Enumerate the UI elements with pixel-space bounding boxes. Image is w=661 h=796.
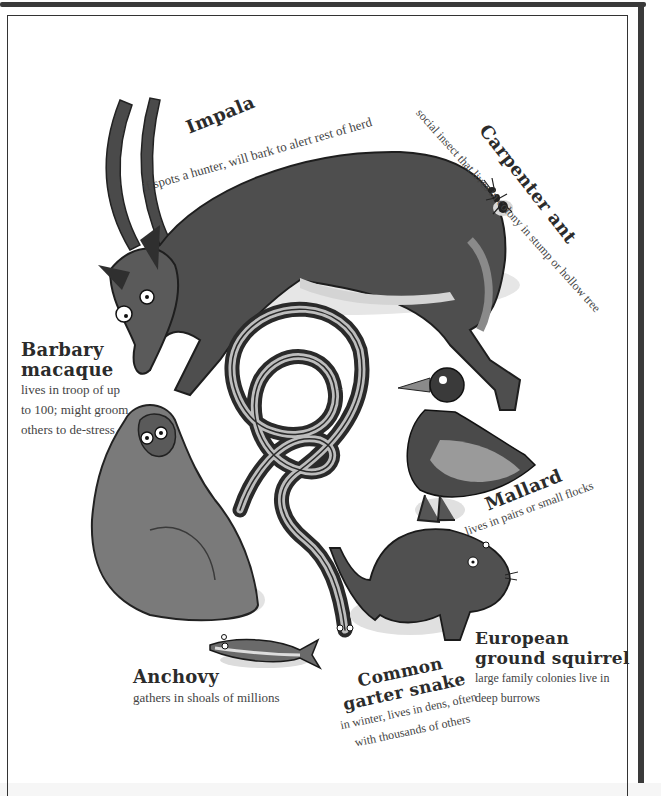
fish-illustration bbox=[210, 635, 320, 669]
barbary-macaque-title-line2: macaque bbox=[21, 360, 191, 380]
barbary-macaque-label: Barbary macaque lives in troop of up to … bbox=[21, 340, 191, 440]
barbary-macaque-desc-line2: to 100; might groom bbox=[21, 400, 191, 420]
ground-squirrel-title-line1: European bbox=[475, 628, 635, 648]
anchovy-label: Anchovy gathers in shoals of millions bbox=[133, 666, 333, 708]
ground-squirrel-label: European ground squirrel large family co… bbox=[475, 628, 635, 708]
ground-squirrel-desc-line2: deep burrows bbox=[475, 688, 635, 708]
barbary-macaque-desc-line3: others to de-stress bbox=[21, 420, 191, 440]
anchovy-title: Anchovy bbox=[133, 666, 333, 688]
barbary-macaque-title-line1: Barbary bbox=[21, 340, 191, 360]
anchovy-description: gathers in shoals of millions bbox=[133, 688, 333, 708]
ground-squirrel-desc-line1: large family colonies live in bbox=[475, 668, 635, 688]
squirrel-illustration bbox=[330, 529, 518, 640]
barbary-macaque-desc-line1: lives in troop of up bbox=[21, 380, 191, 400]
ground-squirrel-title-line2: ground squirrel bbox=[475, 648, 635, 668]
